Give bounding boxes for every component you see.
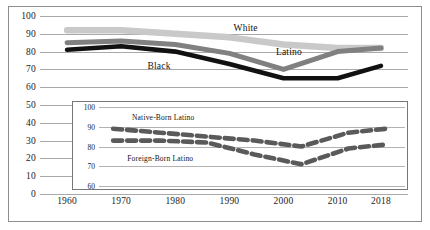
gridline [40,87,408,88]
y-axis-tick-label: 30 [26,136,36,146]
x-axis-tick-label: 2018 [371,196,391,206]
series-label-white: White [234,23,258,33]
inset-gridline [99,147,405,148]
series-label-latino: Latino [276,47,302,57]
inset-gridline [99,107,405,108]
inset-y-axis-tick-label: 90 [88,122,96,131]
y-axis-tick-label: 60 [26,82,36,92]
y-axis-tick-label: 70 [26,64,36,74]
inset-plot-area: Native-Born LatinoForeign-Born Latino [99,107,405,186]
inset-y-axis-tick-label: 80 [88,142,96,151]
gridline [40,34,408,35]
y-axis-tick-label: 80 [26,47,36,57]
gridline [40,69,408,70]
y-axis-tick-label: 20 [26,153,36,163]
inset-y-axis-tick-label: 60 [88,182,96,191]
x-axis-tick-label: 1960 [57,196,77,206]
y-axis-tick-label: 0 [31,189,36,199]
x-axis-tick-label: 2000 [274,196,294,206]
main-y-axis-labels: 0102030405060708090100 [14,16,36,194]
inset-series-label: Foreign-Born Latino [127,154,193,163]
y-axis-tick-label: 10 [26,171,36,181]
inset-series-label: Native-Born Latino [132,112,195,121]
series-line-latino [67,41,381,69]
gridline [40,194,408,195]
chart-figure: 0102030405060708090100 WhiteLatinoBlack … [0,0,430,230]
x-axis-tick-label: 1980 [165,196,185,206]
y-axis-tick-label: 40 [26,118,36,128]
inset-y-axis-tick-label: 100 [84,103,95,112]
inset-y-axis-labels: 60708090100 [75,107,95,186]
inset-y-axis-tick-label: 70 [88,162,96,171]
y-axis-tick-label: 90 [26,29,36,39]
inset-gridline [99,186,405,187]
y-axis-tick-label: 50 [26,100,36,110]
inset-gridline [99,127,405,128]
x-axis-tick-label: 2010 [328,196,348,206]
inset-chart: 60708090100 Native-Born LatinoForeign-Bo… [72,101,408,190]
gridline [40,16,408,17]
x-axis-tick-label: 1970 [111,196,131,206]
x-axis-tick-label: 1990 [220,196,240,206]
inset-series-line [113,129,386,147]
gridline [40,52,408,53]
series-label-black: Black [147,61,170,71]
inset-gridline [99,166,405,167]
y-axis-tick-label: 100 [21,11,36,21]
x-axis-labels: 1960197019801990200020102018 [40,196,408,212]
